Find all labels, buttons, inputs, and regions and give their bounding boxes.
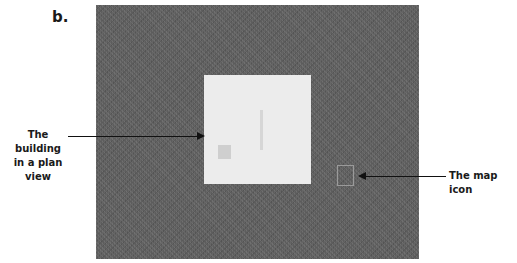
building-plan-view	[204, 75, 311, 184]
map-icon-arrow	[366, 176, 446, 177]
panel-label: b.	[52, 8, 68, 26]
building-callout-line2: in a plan view	[6, 156, 70, 184]
map-icon[interactable]	[337, 165, 354, 186]
building-callout: The building in a plan view	[6, 128, 70, 184]
map-icon-callout: The map icon	[449, 169, 517, 197]
building-wall	[260, 110, 263, 150]
building-callout-line1: The building	[6, 128, 70, 156]
building-block	[218, 145, 231, 159]
scene-view	[96, 5, 419, 259]
building-arrow	[68, 136, 198, 137]
